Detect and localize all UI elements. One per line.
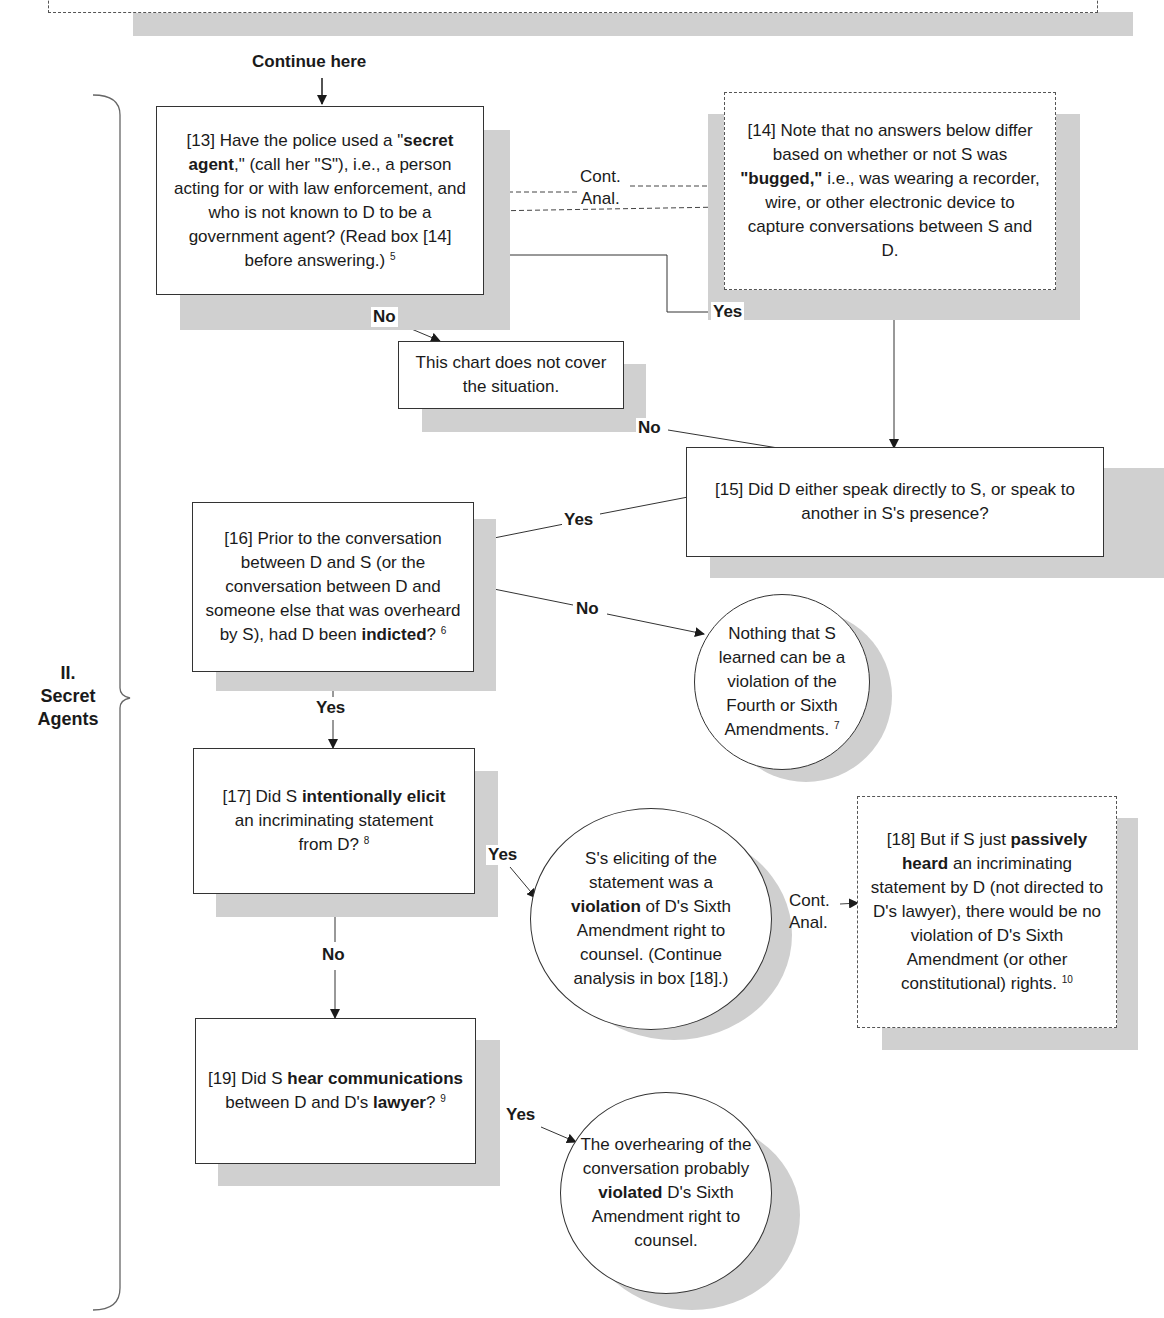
box-14-bugged-note: [14] Note that no answers below differ b… — [724, 92, 1056, 290]
outcome-overhearing-violated-circle: The overhearing of the conversation prob… — [560, 1092, 772, 1294]
edge-label-no-17: No — [320, 945, 347, 965]
outcome-no-violation-circle: Nothing that S learned can be a violatio… — [694, 594, 870, 770]
edge-label-yes-15: Yes — [562, 510, 595, 530]
box-chart-does-not-cover: This chart does not cover the situation. — [398, 341, 624, 409]
cont-anal-label-top: Cont. Anal. — [580, 166, 621, 210]
edge-label-yes-19: Yes — [504, 1105, 537, 1125]
outcome-elicit-violation-circle: S's eliciting of the statement was a vio… — [530, 808, 772, 1030]
edge-label-yes-13: Yes — [711, 302, 744, 322]
section-label: II. Secret Agents — [28, 662, 108, 731]
continue-here-label: Continue here — [250, 52, 368, 72]
box-19-lawyer-communications-question: [19] Did S hear communications between D… — [195, 1018, 476, 1164]
box-13-secret-agent-question: [13] Have the police used a "secret agen… — [156, 106, 484, 295]
edge-label-yes-16: Yes — [314, 698, 347, 718]
edge-label-no-15: No — [636, 418, 663, 438]
box-16-indicted-question: [16] Prior to the conversation between D… — [192, 502, 474, 672]
section-numeral: II. — [28, 662, 108, 685]
edge-label-no-13: No — [371, 307, 398, 327]
section-title-line1: Secret — [28, 685, 108, 708]
edge-label-yes-17: Yes — [486, 845, 519, 865]
box-18-passively-heard-note: [18] But if S just passively heard an in… — [857, 796, 1117, 1028]
edge-label-no-16: No — [574, 599, 601, 619]
section-title-line2: Agents — [28, 708, 108, 731]
box-15-speak-to-s-question: [15] Did D either speak directly to S, o… — [686, 447, 1104, 557]
box-17-intentionally-elicit-question: [17] Did S intentionally elicit an incri… — [193, 748, 475, 894]
cont-anal-label-mid: Cont. Anal. — [789, 890, 830, 934]
